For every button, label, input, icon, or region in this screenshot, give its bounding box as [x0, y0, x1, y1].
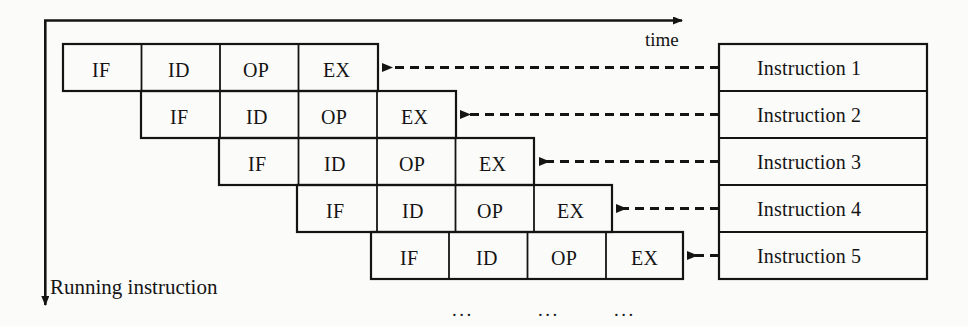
stage-cell-r5-op: OP [551, 248, 577, 268]
stage-cell-r5-ex: EX [631, 248, 658, 268]
continuation-ellipsis-1: ... [452, 300, 474, 319]
stage-cell-r1-op: OP [243, 60, 269, 80]
instruction-mapping-arrows [384, 68, 719, 256]
stage-cell-r3-if: IF [248, 154, 266, 174]
running-instruction-label: Running instruction [50, 277, 217, 298]
stage-cell-r2-ex: EX [401, 107, 428, 127]
stage-cell-r4-id: ID [402, 201, 424, 221]
stage-cell-r5-id: ID [476, 248, 498, 268]
stage-cell-r2-id: ID [246, 107, 268, 127]
continuation-ellipsis-2: ... [538, 300, 560, 319]
stage-cell-r4-if: IF [326, 201, 344, 221]
instruction-row-4: Instruction 4 [757, 199, 861, 219]
stage-cell-r2-if: IF [170, 107, 188, 127]
instruction-row-2: Instruction 2 [757, 105, 861, 125]
instruction-row-3: Instruction 3 [757, 152, 861, 172]
stage-cell-r1-if: IF [92, 60, 110, 80]
stage-cell-r3-op: OP [399, 154, 425, 174]
stage-cell-r3-id: ID [324, 154, 346, 174]
stage-cell-r1-id: ID [168, 60, 190, 80]
stage-cell-r5-if: IF [400, 248, 418, 268]
stage-cell-r4-ex: EX [557, 201, 584, 221]
instruction-row-5: Instruction 5 [757, 246, 861, 266]
instruction-row-1: Instruction 1 [757, 58, 861, 78]
continuation-ellipsis-3: ... [614, 300, 636, 319]
stage-cell-r2-op: OP [321, 107, 347, 127]
stage-cell-r4-op: OP [477, 201, 503, 221]
pipeline-diagram: time Running instruction IF ID OP EX IF … [0, 0, 968, 326]
stage-cell-r3-ex: EX [479, 154, 506, 174]
stage-cell-r1-ex: EX [323, 60, 350, 80]
time-axis-label: time [645, 30, 679, 49]
